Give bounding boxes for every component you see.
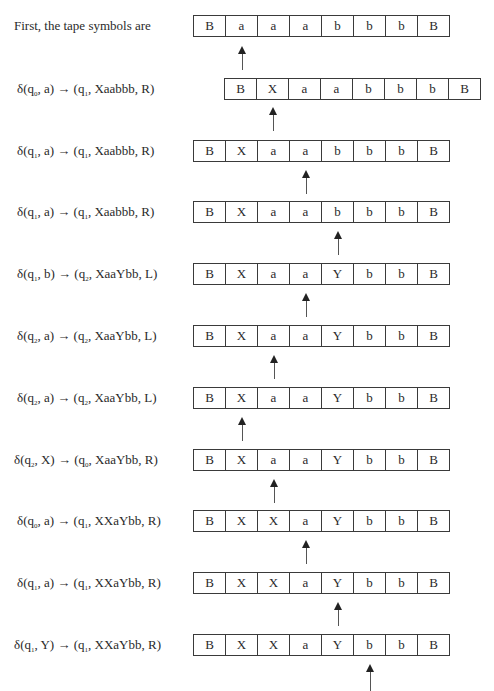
tape-cell: B xyxy=(418,202,449,222)
head-arrow-icon xyxy=(238,417,247,441)
tape-cell: a xyxy=(290,264,322,284)
transition-label: δ(q2, a) → (q2, XaaYbb, L) xyxy=(17,328,157,344)
tape-cell: B xyxy=(194,141,226,161)
transition-label: δ(q1, a) → (q1, Xaabbb, R) xyxy=(17,204,154,220)
transition-label: δ(q1, a) → (q1, Xaabbb, R) xyxy=(17,143,154,159)
head-arrow-icon xyxy=(269,107,278,131)
tape-cell: a xyxy=(290,573,322,593)
tape-cell: B xyxy=(449,79,480,99)
head-arrow-icon xyxy=(334,231,343,255)
tape-cell: B xyxy=(194,202,226,222)
tape-cell: a xyxy=(290,141,322,161)
tape-cell: Y xyxy=(322,635,354,655)
tape-cell: a xyxy=(258,141,290,161)
tape-cell: B xyxy=(194,573,226,593)
tape-cell: X xyxy=(226,511,258,531)
tape-cell: b xyxy=(386,264,418,284)
tape-cell: b xyxy=(354,326,386,346)
tape-cell: a xyxy=(321,79,353,99)
tape-cell: B xyxy=(418,264,449,284)
tape: BXaaYbbB xyxy=(193,449,450,471)
tape-cell: X xyxy=(226,388,258,408)
tape: BaaabbbB xyxy=(193,15,450,37)
tape-cell: b xyxy=(322,141,354,161)
tape-cell: X xyxy=(226,264,258,284)
head-arrow-icon xyxy=(302,293,311,317)
tape-cell: b xyxy=(354,450,386,470)
head-arrow-icon xyxy=(238,46,247,70)
tape: BXXaYbbB xyxy=(193,510,450,532)
tape-cell: a xyxy=(258,202,290,222)
tape-cell: b xyxy=(354,388,386,408)
tape-cell: b xyxy=(386,16,418,36)
tape-cell: X xyxy=(226,573,258,593)
tape-cell: B xyxy=(418,16,449,36)
tape-cell: B xyxy=(194,388,226,408)
tape-cell: Y xyxy=(322,573,354,593)
tape-cell: B xyxy=(418,573,449,593)
tape: BXaaYbbB xyxy=(193,387,450,409)
tape-cell: a xyxy=(289,79,321,99)
tape-cell: B xyxy=(194,635,226,655)
tape: BXXaYbbB xyxy=(193,572,450,594)
head-arrow-icon xyxy=(270,355,279,379)
tape-cell: B xyxy=(418,388,449,408)
tape-cell: b xyxy=(322,16,354,36)
tape-cell: X xyxy=(258,511,290,531)
tape: BXaabbbB xyxy=(193,140,450,162)
transition-label: δ(q1, b) → (q2, XaaYbb, L) xyxy=(17,266,157,282)
tape-cell: B xyxy=(194,16,226,36)
tape-cell: a xyxy=(258,450,290,470)
tape-cell: X xyxy=(226,635,258,655)
tape-cell: b xyxy=(386,141,418,161)
tape-cell: a xyxy=(258,326,290,346)
head-arrow-icon xyxy=(302,540,311,564)
tape-cell: b xyxy=(386,202,418,222)
transition-label: δ(q2, a) → (q2, XaaYbb, L) xyxy=(17,390,157,406)
tape-cell: b xyxy=(354,16,386,36)
tape-cell: b xyxy=(354,141,386,161)
tape-cell: X xyxy=(257,79,289,99)
tape: BXaabbbB xyxy=(224,78,481,100)
transition-label: δ(q2, X) → (q0, XaaYbb, R) xyxy=(14,452,158,468)
tape-cell: a xyxy=(226,16,258,36)
tape-cell: a xyxy=(290,16,322,36)
head-arrow-icon xyxy=(334,602,343,626)
tape-cell: a xyxy=(258,16,290,36)
tape-cell: b xyxy=(354,511,386,531)
tape-cell: B xyxy=(194,511,226,531)
tape-cell: a xyxy=(258,264,290,284)
tape-cell: b xyxy=(386,573,418,593)
tape-cell: a xyxy=(290,326,322,346)
transition-label: δ(q1, Y) → (q1, XXaYbb, R) xyxy=(14,637,161,653)
tape: BXaaYbbB xyxy=(193,263,450,285)
tape-cell: a xyxy=(290,511,322,531)
tape-cell: b xyxy=(386,450,418,470)
tape-cell: B xyxy=(225,79,257,99)
tape-cell: X xyxy=(226,141,258,161)
tape-cell: X xyxy=(226,326,258,346)
tape-cell: b xyxy=(353,79,385,99)
transition-label: δ(q1, a) → (q1, XXaYbb, R) xyxy=(17,575,161,591)
tape-cell: b xyxy=(322,202,354,222)
tape-cell: B xyxy=(194,326,226,346)
tape-cell: B xyxy=(418,635,449,655)
tape-cell: X xyxy=(258,573,290,593)
tape-cell: B xyxy=(194,264,226,284)
tape-cell: X xyxy=(258,635,290,655)
tape-cell: X xyxy=(226,202,258,222)
tape-cell: a xyxy=(290,450,322,470)
tape-cell: Y xyxy=(322,511,354,531)
tape-cell: b xyxy=(386,388,418,408)
tape: BXaabbbB xyxy=(193,201,450,223)
tape-cell: b xyxy=(386,326,418,346)
head-arrow-icon xyxy=(366,664,375,691)
tape-cell: B xyxy=(194,450,226,470)
tape-cell: b xyxy=(385,79,417,99)
tape-cell: X xyxy=(226,450,258,470)
tape-cell: b xyxy=(354,573,386,593)
tape-cell: b xyxy=(386,635,418,655)
transition-label: δ(q0, a) → (q1, Xaabbb, R) xyxy=(17,81,154,97)
tape-cell: a xyxy=(258,388,290,408)
intro-label: First, the tape symbols are xyxy=(14,18,151,34)
